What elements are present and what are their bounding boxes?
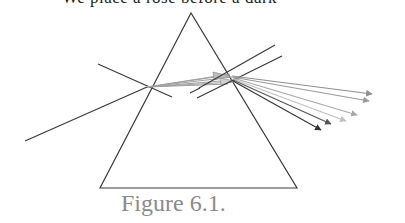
short-mark [190,88,200,93]
dispersed-rays [232,76,372,130]
figure-caption: Figure 6.1. [121,190,226,217]
